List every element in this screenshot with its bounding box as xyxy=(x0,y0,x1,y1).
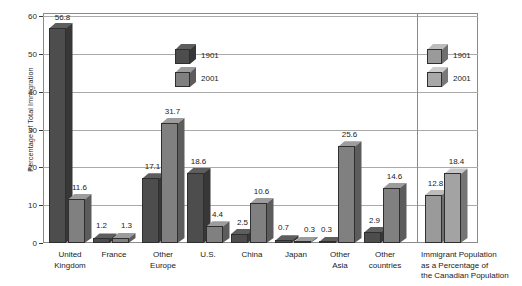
category-label-2: Other Europe xyxy=(150,250,176,271)
category-label-4: China xyxy=(242,250,263,261)
bar-c4-2001 xyxy=(250,198,274,243)
bar-c1-1901-face xyxy=(93,238,110,243)
legend-panel-cube-1901 xyxy=(427,44,448,64)
bar-c6-2001 xyxy=(338,141,362,243)
value-label-othereurope_1901: 17.1 xyxy=(145,162,161,171)
gridline-30 xyxy=(43,130,478,131)
legend-main-label-2001: 2001 xyxy=(201,74,219,83)
bar-c2-2001-face xyxy=(161,123,178,243)
value-label-us_2001: 4.4 xyxy=(212,210,223,219)
bar-c7-2001-side xyxy=(400,183,407,243)
category-label-5: Japan xyxy=(285,250,307,261)
legend-panel-cube-2001-face xyxy=(427,72,442,87)
legend-panel-cube-2001 xyxy=(427,67,448,87)
legend-main-cube-1901-face xyxy=(175,49,190,64)
y-tick-label-30: 30 xyxy=(11,125,37,134)
bar-c8-1901-face xyxy=(425,195,442,243)
value-label-china_2001: 10.6 xyxy=(254,187,270,196)
bar-c4-2001-face xyxy=(250,203,267,243)
legend-main-cube-2001 xyxy=(175,67,196,87)
y-axis-title: Percentage of Total Immigration xyxy=(26,35,35,205)
value-label-france_1901: 1.2 xyxy=(96,221,107,230)
gridline-60 xyxy=(43,16,478,17)
panel-divider xyxy=(417,13,418,243)
bar-c6-1901-face xyxy=(319,241,336,243)
bar-c4-1901-face xyxy=(231,234,248,243)
value-label-otherasia_2001: 25.6 xyxy=(342,130,358,139)
bar-c5-2001 xyxy=(294,237,318,244)
bar-c3-2001 xyxy=(206,221,230,243)
bar-c4-2001-side xyxy=(267,198,274,243)
bar-c5-1901-face xyxy=(275,240,292,243)
bar-c8-2001-face xyxy=(444,173,461,243)
value-label-france_2001: 1.3 xyxy=(121,221,132,230)
bar-c2-2001 xyxy=(161,118,185,243)
bar-c6-2001-side xyxy=(355,141,362,243)
y-tick-label-20: 20 xyxy=(11,163,37,172)
bar-c3-2001-face xyxy=(206,226,223,243)
y-tick-mark-0 xyxy=(39,243,43,244)
legend-panel-cube-1901-face xyxy=(427,49,442,64)
bar-chart: Percentage of Total Immigration 01020304… xyxy=(0,0,522,286)
bar-c0-2001-side xyxy=(85,194,92,243)
legend-main-cube-1901 xyxy=(175,44,196,64)
bar-c0-1901-face xyxy=(49,28,66,243)
legend-main-cube-2001-face xyxy=(175,72,190,87)
value-label-japan_1901: 0.7 xyxy=(278,223,289,232)
bar-c8-2001-side xyxy=(461,168,468,243)
bar-c1-2001-face xyxy=(112,238,129,243)
y-tick-label-60: 60 xyxy=(11,12,37,21)
value-label-panel_1901: 12.8 xyxy=(428,179,444,188)
value-label-panel_2001: 18.4 xyxy=(449,157,465,166)
gridline-50 xyxy=(43,54,478,55)
category-label-0: United Kingdom xyxy=(54,250,86,271)
legend-panel-label-2001: 2001 xyxy=(453,74,471,83)
bar-c8-2001 xyxy=(444,168,468,243)
y-tick-label-40: 40 xyxy=(11,87,37,96)
category-label-8: Immigrant Population as a Percentage of … xyxy=(421,250,509,282)
category-label-3: U.S. xyxy=(200,250,216,261)
bar-c7-2001 xyxy=(383,183,407,243)
value-label-othercountries_2001: 14.6 xyxy=(387,172,403,181)
category-label-7: Other countries xyxy=(369,250,401,271)
legend-main-label-1901: 1901 xyxy=(201,51,219,60)
value-label-othercountries_1901: 2.9 xyxy=(369,216,380,225)
value-label-china_1901: 2.5 xyxy=(237,218,248,227)
value-label-japan_2001: 0.3 xyxy=(304,225,315,234)
category-label-6: Other Asia xyxy=(330,250,350,271)
bar-c0-2001 xyxy=(68,194,92,243)
bar-c6-2001-face xyxy=(338,146,355,243)
bar-c7-2001-face xyxy=(383,188,400,243)
bar-c2-2001-side xyxy=(178,118,185,243)
value-label-uk_2001: 11.6 xyxy=(72,183,87,192)
category-label-1: France xyxy=(102,250,127,261)
bar-c5-2001-face xyxy=(294,241,311,243)
bar-c0-2001-face xyxy=(68,199,85,243)
value-label-othereurope_2001: 31.7 xyxy=(165,107,181,116)
bar-c1-2001 xyxy=(112,233,136,243)
value-label-us_1901: 18.6 xyxy=(191,157,207,166)
value-label-otherasia_1901: 0.3 xyxy=(321,225,332,234)
y-tick-label-50: 50 xyxy=(11,49,37,58)
gridline-40 xyxy=(43,92,478,93)
bar-c7-1901-face xyxy=(364,232,381,243)
y-tick-label-0: 0 xyxy=(11,239,37,248)
bar-c3-1901-face xyxy=(187,173,204,243)
bar-c2-1901-face xyxy=(142,178,159,243)
value-label-uk_1901: 56.8 xyxy=(55,13,71,22)
y-tick-label-10: 10 xyxy=(11,201,37,210)
legend-panel-label-1901: 1901 xyxy=(453,51,471,60)
gridline-20 xyxy=(43,167,478,168)
